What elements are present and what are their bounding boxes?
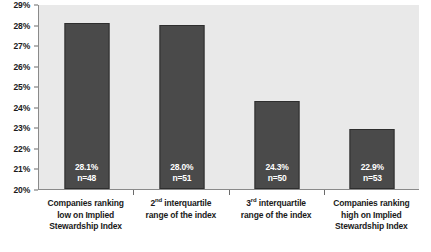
bar-value-label: 22.9%n=53 — [351, 162, 394, 184]
bar-count-label: n=50 — [256, 173, 299, 184]
bar-value-label: 28.1%n=48 — [65, 162, 108, 184]
bars-layer: 28.1%n=4828.0%n=5124.3%n=5022.9%n=53 — [39, 5, 419, 189]
x-axis-category-label: Companies rankinglow on ImpliedStewardsh… — [38, 198, 133, 233]
x-axis-category-label: Companies rankinghigh on ImpliedStewards… — [324, 198, 419, 233]
x-axis-category-label: 3rd interquartilerange of the index — [229, 198, 324, 221]
x-axis-tick-mark — [133, 190, 134, 195]
x-axis-category-label-line: high on Implied — [324, 210, 419, 222]
y-axis-tick-label: 26% — [14, 62, 30, 72]
x-axis-tick-mark — [324, 190, 325, 195]
x-axis-ticks — [38, 190, 419, 195]
x-axis-category-label-line: 3rd interquartile — [229, 198, 324, 210]
plot-area: 28.1%n=4828.0%n=5124.3%n=5022.9%n=53 — [38, 5, 419, 190]
bar-slot: 22.9%n=53 — [325, 5, 420, 189]
bar-percent-label: 28.0% — [160, 162, 203, 173]
bar-value-label: 24.3%n=50 — [256, 162, 299, 184]
x-axis-category-label-line: Companies ranking — [38, 198, 133, 210]
y-axis-tick-label: 22% — [14, 144, 30, 154]
x-axis-category-label-line: range of the index — [133, 210, 228, 222]
x-axis-category-label-line: low on Implied — [38, 210, 133, 222]
x-axis-category-label-line: range of the index — [229, 210, 324, 222]
bar-slot: 28.1%n=48 — [39, 5, 134, 189]
x-axis-category-label-line: Stewardship Index — [324, 221, 419, 233]
x-axis-category-label: 2nd interquartilerange of the index — [133, 198, 228, 221]
x-axis-category-label-line: Companies ranking — [324, 198, 419, 210]
bar-count-label: n=53 — [351, 173, 394, 184]
y-axis-tick-label: 28% — [14, 21, 30, 31]
y-axis-tick-label: 23% — [14, 123, 30, 133]
x-axis-category-label-line: 2nd interquartile — [133, 198, 228, 210]
y-axis-tick-label: 29% — [14, 0, 30, 10]
bar-value-label: 28.0%n=51 — [160, 162, 203, 184]
y-axis-tick-label: 27% — [14, 41, 30, 51]
x-axis-category-label-line: Stewardship Index — [38, 221, 133, 233]
y-axis-tick-label: 24% — [14, 103, 30, 113]
bar: 28.0%n=51 — [159, 25, 204, 189]
bar-chart: 29%28%27%26%25%24%23%22%21%20% 28.1%n=48… — [0, 0, 431, 252]
bar-count-label: n=51 — [160, 173, 203, 184]
y-axis-tick-label: 25% — [14, 82, 30, 92]
y-axis-tick-label: 21% — [14, 164, 30, 174]
bar: 28.1%n=48 — [64, 23, 109, 190]
bar-percent-label: 24.3% — [256, 162, 299, 173]
x-axis-category-labels: Companies rankinglow on ImpliedStewardsh… — [38, 198, 419, 248]
bar-percent-label: 28.1% — [65, 162, 108, 173]
y-axis-tick-label: 20% — [14, 185, 30, 195]
y-axis: 29%28%27%26%25%24%23%22%21%20% — [0, 0, 36, 196]
bar-percent-label: 22.9% — [351, 162, 394, 173]
x-axis-tick-mark — [229, 190, 230, 195]
bar-count-label: n=48 — [65, 173, 108, 184]
bar-slot: 24.3%n=50 — [230, 5, 325, 189]
bar: 22.9%n=53 — [350, 129, 395, 189]
bar: 24.3%n=50 — [255, 101, 300, 189]
bar-slot: 28.0%n=51 — [134, 5, 229, 189]
